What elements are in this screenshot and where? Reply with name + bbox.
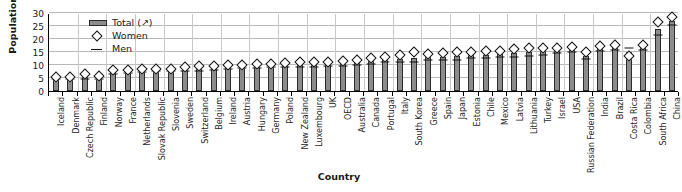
bar-group — [49, 14, 63, 91]
total-bar — [440, 57, 446, 91]
x-axis-tick — [463, 92, 464, 96]
men-marker — [510, 56, 519, 57]
legend-label-total: Total (↗) — [112, 17, 192, 29]
men-marker — [581, 59, 590, 60]
total-bar — [597, 48, 603, 91]
chart-legend: Total (↗) Women Men — [88, 17, 192, 56]
x-axis-category-label: Finland — [101, 97, 109, 126]
legend-label-men: Men — [112, 43, 192, 55]
x-axis-tick — [177, 92, 178, 96]
x-axis-category-label: Mexico — [502, 97, 510, 125]
total-bar — [425, 57, 431, 91]
x-axis-tick — [420, 92, 421, 96]
bar-group — [650, 14, 664, 91]
x-axis-tick — [206, 92, 207, 96]
bar-group — [436, 14, 450, 91]
total-bar — [526, 52, 532, 91]
x-axis-category-label: USA — [574, 97, 582, 114]
x-axis-category-label: Lithuania — [531, 97, 539, 134]
x-axis-tick — [606, 92, 607, 96]
men-marker — [538, 55, 547, 56]
x-axis-tick — [578, 92, 579, 96]
x-axis-tick — [77, 92, 78, 96]
bar-group — [278, 14, 292, 91]
bar-group — [464, 14, 478, 91]
x-axis-tick — [678, 92, 679, 96]
bar-group — [307, 14, 321, 91]
bar-group — [221, 14, 235, 91]
bar-group — [450, 14, 464, 91]
total-bar — [311, 64, 317, 91]
y-axis-tick-label: 15 — [33, 49, 44, 58]
x-axis-tick — [148, 92, 149, 96]
bar-group — [607, 14, 621, 91]
bar-group — [579, 14, 593, 91]
bar-group — [407, 14, 421, 91]
y-axis-tick-label: 5 — [38, 75, 44, 84]
x-axis-category-label: Ireland — [230, 97, 238, 125]
total-bar — [354, 62, 360, 91]
x-axis-category-label: New Zealand — [302, 97, 310, 150]
x-axis-category-label: Sweden — [187, 97, 195, 129]
women-marker — [408, 46, 419, 57]
total-bar — [454, 56, 460, 91]
x-axis-category-label: Poland — [287, 97, 295, 124]
x-axis-tick — [592, 92, 593, 96]
x-axis-category-label: Estonia — [474, 97, 482, 126]
bar-swatch-icon — [88, 17, 110, 29]
men-marker — [467, 58, 476, 59]
bar-group — [249, 14, 263, 91]
total-bar — [468, 55, 474, 91]
bar-group — [235, 14, 249, 91]
total-bar — [325, 64, 331, 91]
x-axis-tick — [320, 92, 321, 96]
x-axis-tick — [277, 92, 278, 96]
total-bar — [483, 55, 489, 91]
x-axis-tick — [134, 92, 135, 96]
x-axis-category-label: OECD — [345, 97, 353, 120]
x-axis-tick — [392, 92, 393, 96]
total-bar — [196, 69, 202, 91]
men-marker — [481, 57, 490, 58]
bar-group — [192, 14, 206, 91]
x-axis-tick — [349, 92, 350, 96]
x-axis-category-label: Iceland — [58, 97, 66, 126]
men-marker — [424, 60, 433, 61]
x-axis-tick — [48, 92, 49, 96]
bar-group — [507, 14, 521, 91]
y-axis-tick-label: 30 — [33, 10, 44, 19]
bar-group — [665, 14, 679, 91]
y-axis-tick-label: 10 — [33, 62, 44, 71]
bar-group — [550, 14, 564, 91]
x-axis-tick — [91, 92, 92, 96]
total-bar — [511, 53, 517, 91]
bar-group — [564, 14, 578, 91]
total-bar — [640, 47, 646, 91]
total-bar — [282, 65, 288, 91]
x-axis-category-label: Chile — [488, 97, 496, 117]
x-axis-tick — [248, 92, 249, 96]
total-bar — [669, 21, 675, 91]
x-axis-tick — [120, 92, 121, 96]
legend-item-women: Women — [88, 30, 192, 43]
total-bar — [382, 60, 388, 91]
men-marker — [367, 63, 376, 64]
x-axis-category-label: Colombia — [645, 97, 653, 135]
x-axis-category-label: Germany — [273, 97, 281, 134]
x-axis-tick — [191, 92, 192, 96]
x-axis-category-label: Japan — [459, 97, 467, 119]
total-bar — [340, 63, 346, 91]
x-axis-category-label: Luxembourg — [316, 97, 324, 147]
dash-marker-icon — [88, 43, 110, 55]
x-axis-category-label: Denmark — [73, 97, 81, 134]
total-bar — [497, 54, 503, 91]
total-bar — [612, 48, 618, 91]
y-axis-tick-label: 25 — [33, 23, 44, 32]
x-axis-tick — [649, 92, 650, 96]
men-marker — [524, 56, 533, 57]
bar-group — [350, 14, 364, 91]
men-marker — [410, 62, 419, 63]
legend-label-women: Women — [112, 30, 192, 42]
x-axis-category-label: Belgium — [216, 97, 224, 130]
x-axis-category-label: Italy — [402, 97, 410, 114]
